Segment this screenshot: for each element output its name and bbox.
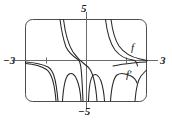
graph-figure: 5 −5 −3 3 f f′ bbox=[0, 0, 172, 121]
curve-label-f-prime: f′ bbox=[126, 69, 131, 80]
axis-label-xmin: −3 bbox=[3, 55, 15, 66]
plot-canvas bbox=[0, 0, 172, 121]
axis-label-ymin: −5 bbox=[78, 106, 90, 117]
axis-label-ymax: 5 bbox=[81, 3, 87, 14]
axis-label-xmax: 3 bbox=[160, 55, 166, 66]
curve-label-f: f bbox=[131, 42, 134, 53]
